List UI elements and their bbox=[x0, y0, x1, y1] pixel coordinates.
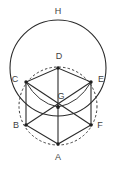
label-e: E bbox=[98, 74, 104, 84]
label-c: C bbox=[12, 74, 19, 84]
vertex-point-a bbox=[56, 142, 59, 145]
label-h: H bbox=[55, 6, 62, 16]
vertex-point-g bbox=[56, 105, 60, 109]
vertex-point-f bbox=[89, 123, 92, 126]
vertex-point-b bbox=[24, 123, 27, 126]
vertex-point-c bbox=[24, 80, 27, 83]
vertex-point-d bbox=[56, 66, 59, 69]
label-a: A bbox=[55, 152, 61, 162]
vertex-point-e bbox=[89, 80, 92, 83]
label-d: D bbox=[56, 51, 63, 61]
geometry-figure-svg: H D C E G B F A bbox=[0, 0, 115, 171]
label-f: F bbox=[97, 120, 103, 130]
geometry-figure-container: H D C E G B F A bbox=[0, 0, 115, 171]
label-b: B bbox=[13, 120, 19, 130]
label-g: G bbox=[57, 91, 64, 101]
